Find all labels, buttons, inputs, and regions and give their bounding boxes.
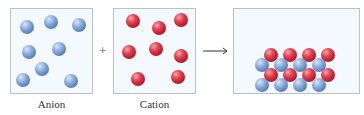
cation-sphere bbox=[131, 72, 145, 86]
cation-sphere bbox=[174, 13, 188, 27]
cation-sphere bbox=[152, 21, 166, 35]
cation-label: Cation bbox=[113, 98, 196, 110]
anion-sphere bbox=[255, 78, 269, 92]
anion-sphere bbox=[35, 62, 49, 76]
anion-sphere bbox=[16, 73, 30, 87]
anion-sphere bbox=[72, 18, 86, 32]
anion-sphere bbox=[52, 42, 66, 56]
cation-sphere bbox=[174, 49, 188, 63]
plus-sign: + bbox=[99, 43, 106, 59]
anion-sphere bbox=[22, 45, 36, 59]
anion-sphere bbox=[20, 20, 34, 34]
cation-sphere bbox=[126, 14, 140, 28]
anion-sphere bbox=[293, 78, 307, 92]
cation-sphere bbox=[149, 42, 163, 56]
anion-sphere bbox=[44, 15, 58, 29]
anion-sphere bbox=[312, 78, 326, 92]
anion-sphere bbox=[64, 74, 78, 88]
cation-sphere bbox=[122, 45, 136, 59]
reaction-arrow-icon bbox=[203, 46, 229, 56]
anion-sphere bbox=[274, 78, 288, 92]
cation-sphere bbox=[171, 70, 185, 84]
anion-label: Anion bbox=[10, 98, 93, 110]
